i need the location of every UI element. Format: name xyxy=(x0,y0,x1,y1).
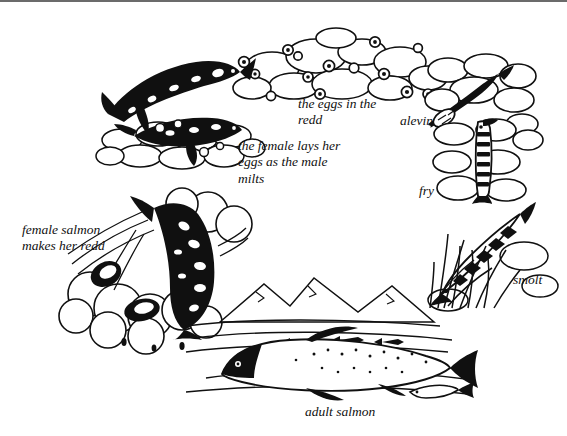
label-female-makes-redd: female salmon makes her redd xyxy=(22,222,105,255)
label-alevin: alevin xyxy=(400,113,433,129)
top-rule-divider xyxy=(0,0,567,2)
label-female-lays-eggs: the female lays her eggs as the male mil… xyxy=(238,138,340,187)
label-smolt: smolt xyxy=(513,272,542,288)
label-adult-salmon: adult salmon xyxy=(305,404,375,420)
fry-illustration xyxy=(432,118,540,204)
eggs-in-redd-illustration xyxy=(232,22,447,100)
label-eggs-in-the-redd: the eggs in the redd xyxy=(298,96,376,129)
spawning-pair-illustration xyxy=(100,48,260,170)
label-fry: fry xyxy=(419,183,434,199)
salmon-life-cycle-figure: the eggs in the redd alevin the female l… xyxy=(0,0,567,436)
adult-salmon-illustration xyxy=(186,268,486,400)
